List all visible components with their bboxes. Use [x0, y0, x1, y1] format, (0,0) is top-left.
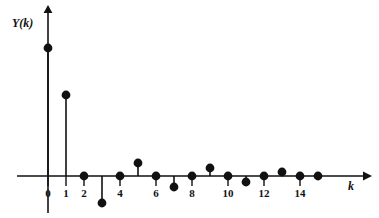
data-point-k3 [98, 199, 107, 208]
data-point-k9 [206, 164, 215, 173]
data-point-k10 [224, 172, 233, 181]
data-point-k13 [278, 168, 287, 177]
tick-label-4: 4 [117, 187, 123, 199]
data-point-k11 [242, 178, 251, 187]
data-point-k6 [152, 172, 161, 181]
tick-label-2: 2 [81, 187, 87, 199]
data-point-k0 [44, 44, 53, 53]
data-point-k8 [188, 172, 197, 181]
data-point-k2 [80, 172, 89, 181]
tick-label-6: 6 [153, 187, 159, 199]
y-axis-label: Y(k) [12, 16, 33, 30]
x-axis-label: k [348, 179, 354, 193]
data-point-k1 [62, 91, 71, 100]
data-point-k15 [314, 172, 323, 181]
arrow-up-icon [44, 5, 53, 13]
data-point-k7 [170, 183, 179, 192]
data-point-k5 [134, 159, 143, 168]
tick-label-14: 14 [295, 187, 307, 199]
stem-plot-figure: Y(k) k 0 1 2 4 6 8 10 12 14 [0, 0, 379, 218]
arrow-right-icon [363, 172, 372, 181]
tick-label-12: 12 [259, 187, 271, 199]
tick-label-1: 1 [63, 187, 69, 199]
stem-markers [44, 44, 323, 208]
tick-label-10: 10 [223, 187, 235, 199]
data-point-k12 [260, 172, 269, 181]
stem-plot-canvas: Y(k) k 0 1 2 4 6 8 10 12 14 [0, 0, 379, 218]
data-point-k4 [116, 172, 125, 181]
tick-label-8: 8 [189, 187, 195, 199]
data-point-k14 [296, 172, 305, 181]
tick-label-0: 0 [45, 187, 51, 199]
